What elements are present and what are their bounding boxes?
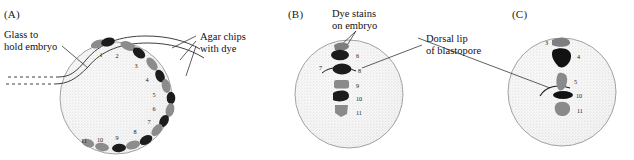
num-b-11: 11 [356, 109, 362, 116]
stain-b-8 [333, 64, 352, 75]
num-a-11: 11 [81, 137, 87, 144]
num-b-8: 8 [358, 67, 361, 74]
embryo-stipple-b [295, 40, 403, 148]
num-b-7: 7 [319, 64, 322, 71]
num-b-10: 10 [356, 95, 362, 102]
num-c-10: 10 [576, 92, 582, 99]
num-c-5: 5 [574, 78, 577, 85]
num-a-1: 1 [99, 51, 102, 58]
num-c-3: 3 [545, 39, 548, 46]
stain-b-6 [331, 50, 349, 60]
num-b-6: 6 [356, 52, 359, 59]
num-a-8: 8 [133, 128, 136, 135]
num-a-10: 10 [97, 136, 103, 143]
num-a-9: 9 [115, 134, 118, 141]
panel-a-drawing: 1 2 3 4 5 6 7 8 9 10 11 [0, 0, 290, 160]
stain-c-10 [553, 91, 573, 99]
num-a-3: 3 [134, 62, 137, 69]
panel-c: (C) [500, 0, 634, 160]
panel-b-drawing: 6 7 8 9 10 11 [286, 0, 506, 160]
num-a-7: 7 [147, 118, 150, 125]
figure-vogt-fate-map: (A) Glass to hold embryo Agar chips with… [0, 0, 634, 160]
stain-c-11 [555, 102, 570, 116]
panel-a: (A) Glass to hold embryo Agar chips with… [0, 0, 220, 160]
num-a-5: 5 [152, 91, 155, 98]
num-b-9: 9 [356, 82, 359, 89]
num-c-4: 4 [577, 53, 580, 60]
num-c-11: 11 [577, 107, 583, 114]
num-a-4: 4 [145, 76, 148, 83]
num-a-6: 6 [152, 105, 155, 112]
stain-b-9 [334, 80, 349, 89]
panel-b: (B) Dye stains on embryo Dorsal lip of b… [286, 0, 446, 160]
num-a-2: 2 [115, 52, 118, 59]
panel-c-drawing: 3 4 5 10 11 [500, 0, 634, 160]
